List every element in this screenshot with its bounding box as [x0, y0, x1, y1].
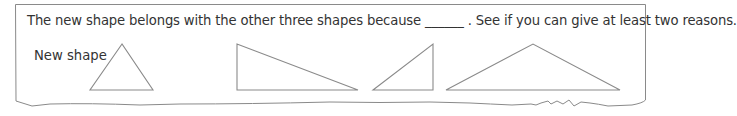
shapes-layer — [90, 44, 620, 90]
question-prompt: The new shape belongs with the other thr… — [27, 13, 737, 28]
obtuse-triangle — [446, 44, 620, 90]
right-triangle-wide — [237, 44, 358, 90]
right-triangle-small — [373, 44, 433, 90]
new-shape-label: New shape — [34, 48, 107, 63]
